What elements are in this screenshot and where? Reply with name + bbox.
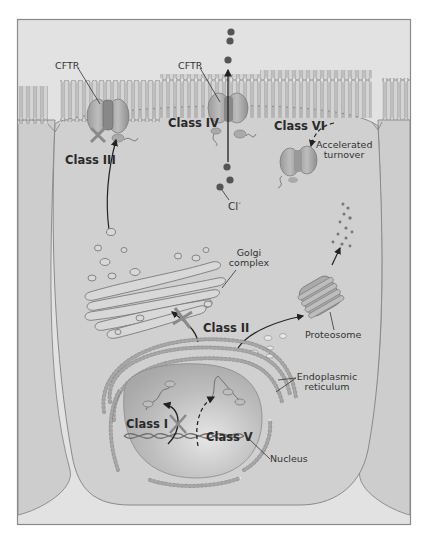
label-golgi-complex: Golgi complex xyxy=(228,248,270,269)
label-er-line2: reticulum xyxy=(296,382,358,392)
label-class-iv: Class IV xyxy=(168,117,219,130)
label-proteosome: Proteosome xyxy=(305,330,361,340)
label-nucleus: Nucleus xyxy=(270,454,308,464)
label-cftr-center: CFTR xyxy=(178,61,202,71)
label-endoplasmic-reticulum: Endoplasmic reticulum xyxy=(296,372,358,393)
label-class-v: Class V xyxy=(206,431,253,444)
label-class-i: Class I xyxy=(126,418,168,431)
label-class-ii: Class II xyxy=(203,322,249,335)
diagram-canvas xyxy=(0,0,424,541)
label-chloride-sup: - xyxy=(238,199,241,207)
label-class-iii: Class III xyxy=(65,154,116,167)
label-chloride: Cl- xyxy=(228,200,241,212)
label-accelerated-turnover: Accelerated turnover xyxy=(316,140,372,161)
cftr-mutation-classes-diagram: CFTR CFTR Class III Class IV Class VI Ac… xyxy=(0,0,424,541)
label-class-vi: Class VI xyxy=(274,120,325,133)
label-cftr-left: CFTR xyxy=(55,61,79,71)
label-golgi-line2: complex xyxy=(228,258,270,268)
label-chloride-text: Cl xyxy=(228,200,238,212)
label-accelerated-turnover-line2: turnover xyxy=(316,150,372,160)
